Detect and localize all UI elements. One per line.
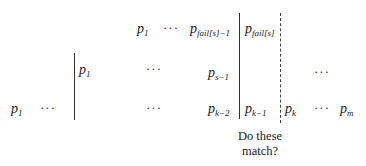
bottom-ellipsis-right: ··· [314,101,330,114]
middle-divider-line [239,13,240,119]
bottom-ellipsis-left: ··· [40,101,56,114]
bottom-p-k-minus-1: pk−1 [245,102,267,118]
top-p1: p1 [137,22,149,38]
match-question-caption: Do these match? [230,129,290,159]
bottom-p-m: pm [340,102,354,118]
dashed-divider-line [280,13,281,123]
top-p-fail-minus-1: pfail[s]−1 [190,22,230,38]
top-p-fail: pfail[s] [245,22,275,38]
bottom-ellipsis-mid: ··· [146,101,162,114]
bottom-p-k-minus-2: pk−2 [208,102,230,118]
left-divider-line [74,53,75,120]
bottom-p1: p1 [11,102,23,118]
top-ellipsis: ··· [163,21,179,34]
caption-line-1: Do these [230,129,290,144]
middle-ellipsis-right: ··· [314,65,330,78]
middle-p-s-minus-1: ps−1 [208,66,229,82]
middle-ellipsis-left: ··· [146,62,162,75]
middle-p1: p1 [79,63,91,79]
caption-line-2: match? [230,144,290,159]
bottom-p-k: pk [285,102,296,118]
